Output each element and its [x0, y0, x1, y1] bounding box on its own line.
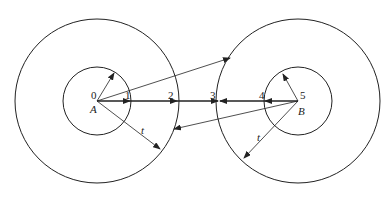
- point-label-0: 0: [91, 89, 97, 101]
- thickness-a-arrow: [97, 101, 160, 149]
- point-label-2: 2: [168, 89, 174, 101]
- point-label-4: 4: [259, 89, 265, 101]
- point-label-1: 1: [125, 89, 131, 101]
- ray-b-to-a-outer: [174, 101, 298, 129]
- radius-a-inner-arrow: [97, 73, 114, 101]
- point-label-3: 3: [210, 89, 216, 101]
- thickness-b-arrow: [244, 101, 298, 158]
- center-label-b: B: [298, 105, 305, 117]
- labels: 0 1 2 3 4 5 A B t t: [89, 89, 306, 143]
- thickness-label-a: t: [141, 124, 145, 136]
- center-label-a: A: [89, 103, 97, 115]
- point-label-5: 5: [300, 89, 306, 101]
- radius-b-inner-arrow: [283, 74, 298, 101]
- two-circle-diagram: 0 1 2 3 4 5 A B t t: [0, 0, 390, 198]
